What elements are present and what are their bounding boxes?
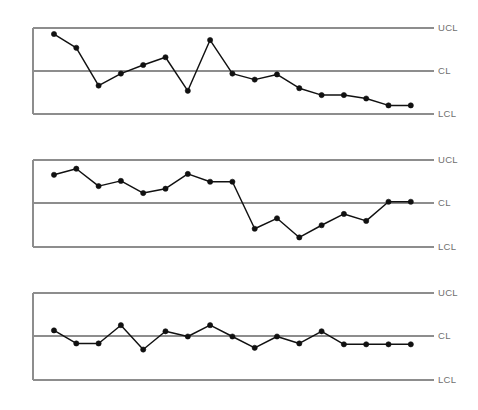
upper-control-limit-label: UCL xyxy=(438,287,458,298)
lower-control-limit-label: LCL xyxy=(438,374,456,385)
data-point xyxy=(386,342,391,347)
data-point xyxy=(364,342,369,347)
data-point xyxy=(297,341,302,346)
data-point xyxy=(274,334,279,339)
control-chart-panel-3: UCLCLLCL xyxy=(0,0,478,410)
data-point xyxy=(51,328,56,333)
data-point xyxy=(185,334,190,339)
data-point xyxy=(252,345,257,350)
data-point xyxy=(74,341,79,346)
data-point xyxy=(319,329,324,334)
centre-line-label: CL xyxy=(438,330,451,341)
control-chart-figure: UCLCLLCLUCLCLLCLUCLCLLCL xyxy=(0,0,478,410)
data-point xyxy=(163,329,168,334)
data-point xyxy=(230,334,235,339)
data-point xyxy=(341,342,346,347)
data-point xyxy=(118,323,123,328)
data-point xyxy=(141,347,146,352)
data-point xyxy=(408,342,413,347)
data-point xyxy=(96,341,101,346)
data-point xyxy=(208,323,213,328)
